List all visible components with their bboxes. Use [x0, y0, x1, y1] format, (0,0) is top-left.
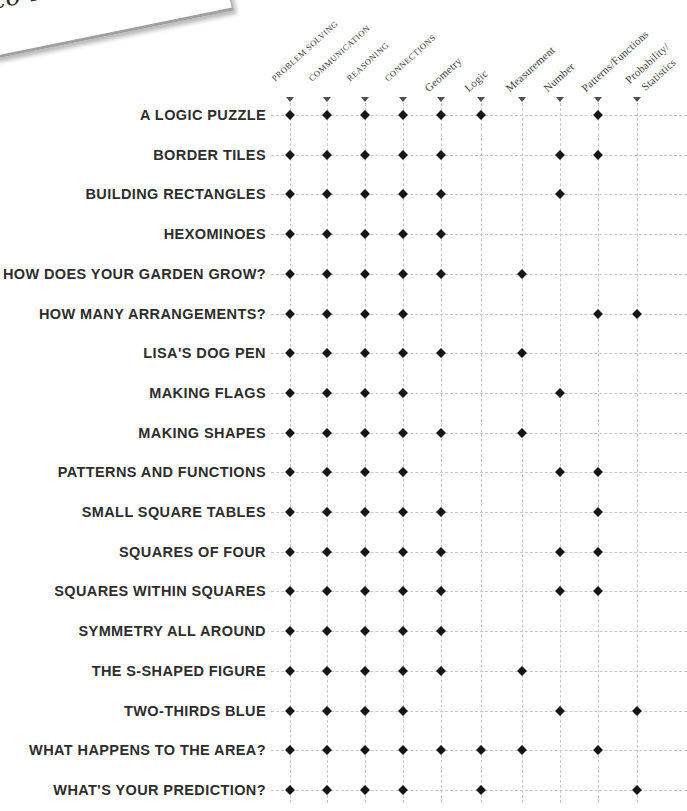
row-label: SQUARES OF FOUR	[0, 544, 266, 560]
row-label: HOW MANY ARRANGEMENTS?	[0, 306, 266, 322]
column-grid-line	[522, 103, 523, 803]
matrix-row: PATTERNS AND FUNCTIONS	[0, 460, 687, 484]
row-leader-line	[271, 194, 687, 195]
row-label: HOW DOES YOUR GARDEN GROW?	[0, 266, 266, 282]
matrix-row: HOW DOES YOUR GARDEN GROW?	[0, 262, 687, 286]
row-label: BUILDING RECTANGLES	[0, 186, 266, 202]
column-header: PROBLEM SOLVING	[269, 18, 341, 84]
column-pointer-triangle-icon	[556, 97, 564, 102]
matrix-row: BORDER TILES	[0, 143, 687, 167]
row-label: THE S-SHAPED FIGURE	[0, 663, 266, 679]
matrix-row: MAKING SHAPES	[0, 421, 687, 445]
column-pointer-triangle-icon	[633, 97, 641, 102]
matrix-row: HEXOMINOES	[0, 222, 687, 246]
row-leader-line	[271, 433, 687, 434]
column-header: Logic	[462, 67, 490, 94]
column-pointer-triangle-icon	[286, 97, 294, 102]
matrix-row: TWO-THIRDS BLUE	[0, 699, 687, 723]
row-leader-line	[271, 353, 687, 354]
matrix-row: A LOGIC PUZZLE	[0, 103, 687, 127]
row-label: BORDER TILES	[0, 147, 266, 163]
row-leader-line	[271, 472, 687, 473]
column-header-line: Number	[541, 60, 577, 94]
row-label: HEXOMINOES	[0, 226, 266, 242]
column-grid-line	[290, 103, 291, 803]
row-label: MAKING SHAPES	[0, 425, 266, 441]
row-label: SYMMETRY ALL AROUND	[0, 623, 266, 639]
matrix-row: BUILDING RECTANGLES	[0, 182, 687, 206]
column-header: Geometry	[422, 55, 464, 94]
row-label: SMALL SQUARE TABLES	[0, 504, 266, 520]
column-pointer-triangle-icon	[518, 97, 526, 102]
matrix-row: LISA'S DOG PEN	[0, 341, 687, 365]
row-leader-line	[271, 631, 687, 632]
page-corner-flip: to N	[0, 0, 234, 59]
column-pointer-triangle-icon	[594, 97, 602, 102]
row-leader-line	[271, 155, 687, 156]
row-label: PATTERNS AND FUNCTIONS	[0, 464, 266, 480]
column-grid-line	[481, 103, 482, 803]
column-pointer-triangle-icon	[361, 97, 369, 102]
row-leader-line	[271, 314, 687, 315]
column-pointer-triangle-icon	[323, 97, 331, 102]
row-label: MAKING FLAGS	[0, 385, 266, 401]
row-leader-line	[271, 393, 687, 394]
row-label: LISA'S DOG PEN	[0, 345, 266, 361]
column-pointer-triangle-icon	[399, 97, 407, 102]
column-pointer-triangle-icon	[437, 97, 445, 102]
column-grid-line	[327, 103, 328, 803]
row-label: SQUARES WITHIN SQUARES	[0, 583, 266, 599]
column-grid-line	[598, 103, 599, 803]
row-leader-line	[271, 234, 687, 235]
page-corner-text-fragment: to N	[0, 0, 55, 14]
row-label: A LOGIC PUZZLE	[0, 107, 266, 123]
row-leader-line	[271, 552, 687, 553]
matrix-chart-page: PROBLEM SOLVINGCOMMUNICATIONREASONINGCON…	[0, 0, 687, 811]
matrix-row: WHAT HAPPENS TO THE AREA?	[0, 738, 687, 762]
row-leader-line	[271, 274, 687, 275]
column-header-line: PROBLEM SOLVING	[269, 18, 341, 84]
row-leader-line	[271, 512, 687, 513]
row-label: WHAT HAPPENS TO THE AREA?	[0, 742, 266, 758]
matrix-row: SYMMETRY ALL AROUND	[0, 619, 687, 643]
column-grid-line	[637, 103, 638, 803]
column-header: Number	[541, 60, 577, 94]
matrix-row: SQUARES OF FOUR	[0, 540, 687, 564]
row-leader-line	[271, 711, 687, 712]
matrix-row: SQUARES WITHIN SQUARES	[0, 579, 687, 603]
column-grid-line	[403, 103, 404, 803]
column-pointer-triangle-icon	[477, 97, 485, 102]
column-grid-line	[441, 103, 442, 803]
matrix-row: SMALL SQUARE TABLES	[0, 500, 687, 524]
matrix-row: HOW MANY ARRANGEMENTS?	[0, 302, 687, 326]
row-label: TWO-THIRDS BLUE	[0, 703, 266, 719]
column-header-line: Logic	[462, 67, 490, 94]
row-label: WHAT'S YOUR PREDICTION?	[0, 782, 266, 798]
column-header-line: Geometry	[422, 55, 464, 94]
column-grid-line	[365, 103, 366, 803]
matrix-row: WHAT'S YOUR PREDICTION?	[0, 778, 687, 802]
row-leader-line	[271, 671, 687, 672]
matrix-row: MAKING FLAGS	[0, 381, 687, 405]
matrix-row: THE S-SHAPED FIGURE	[0, 659, 687, 683]
row-leader-line	[271, 591, 687, 592]
column-grid-line	[560, 103, 561, 803]
